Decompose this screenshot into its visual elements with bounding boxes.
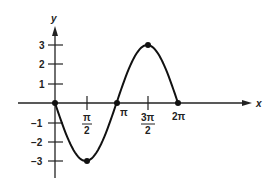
point-max — [145, 42, 151, 48]
point-2pi — [175, 100, 181, 106]
point-min — [84, 158, 90, 164]
x-tick-3pi-half-den: 2 — [145, 125, 151, 136]
x-tick-pi: π — [120, 107, 128, 118]
point-origin — [52, 100, 58, 106]
y-tick-neg2: −2 — [31, 137, 43, 148]
y-axis-label: y — [50, 13, 57, 24]
point-pi — [114, 100, 120, 106]
y-tick-1: 1 — [39, 79, 45, 90]
y-tick-3: 3 — [39, 40, 45, 51]
x-tick-2pi: 2π — [172, 111, 186, 122]
x-tick-pi-half-den: 2 — [84, 125, 90, 136]
y-tick-neg1: −1 — [31, 118, 43, 129]
x-tick-pi-half-num: π — [83, 112, 91, 123]
sine-chart: x y 3 2 1 −1 −2 −3 π 2 π 3π 2 2π — [0, 0, 278, 184]
y-tick-2: 2 — [39, 59, 45, 70]
x-tick-3pi-half-num: 3π — [141, 112, 155, 123]
y-axis-arrow-icon — [52, 26, 58, 36]
x-axis-label: x — [255, 98, 262, 109]
y-tick-neg3: −3 — [31, 156, 43, 167]
x-axis-arrow-icon — [242, 100, 252, 106]
